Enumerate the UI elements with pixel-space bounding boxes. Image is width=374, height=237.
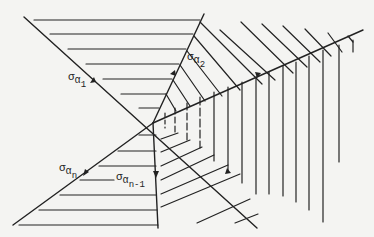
- arrow-icon: [153, 171, 159, 178]
- label-sigma-alpha-n-1: σαn-1: [116, 172, 145, 190]
- label-sigma-alpha-1: σα1: [68, 72, 86, 90]
- hatch-top-left: [34, 20, 200, 108]
- arrowheads: [83, 70, 261, 178]
- hatch-lower-right: [161, 133, 258, 223]
- label-sigma-alpha-n: σαn: [59, 163, 77, 181]
- label-sigma-alpha-2: σα2: [187, 52, 205, 70]
- arrow-icon: [170, 70, 176, 76]
- diagram-canvas: [0, 0, 374, 237]
